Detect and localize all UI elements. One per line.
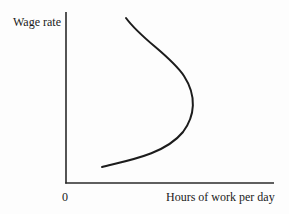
x-axis-label: Hours of work per day (166, 190, 275, 204)
y-axis-label: Wage rate (13, 15, 61, 29)
labour-supply-curve (102, 18, 193, 167)
origin-label: 0 (62, 190, 68, 204)
chart-canvas (0, 0, 289, 214)
labour-supply-chart: Wage rate 0 Hours of work per day (0, 0, 289, 214)
